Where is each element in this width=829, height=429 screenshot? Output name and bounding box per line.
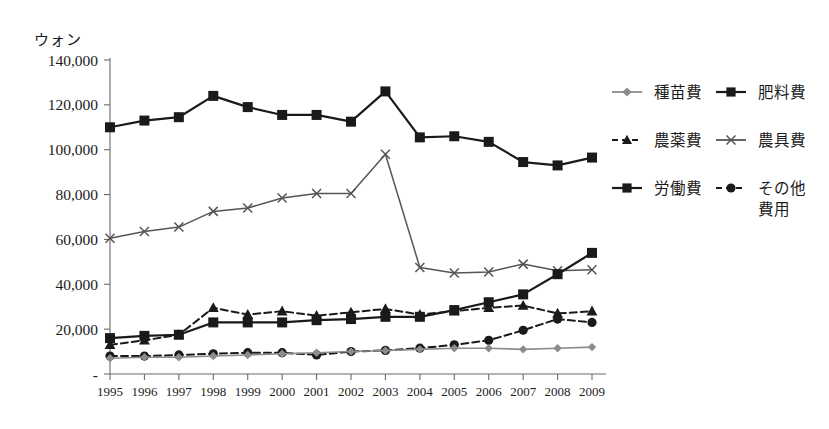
data-point-marker bbox=[484, 137, 494, 147]
legend-label: 農具費 bbox=[758, 132, 806, 149]
data-point-marker bbox=[518, 157, 528, 167]
line-chart-plot: 140,000120,000100,00080,00060,00040,0002… bbox=[0, 0, 829, 429]
data-point-marker bbox=[243, 317, 253, 327]
x-axis-tick-label: 2005 bbox=[441, 384, 467, 399]
data-point-marker bbox=[726, 87, 735, 96]
y-axis-tick-label: 100,000 bbox=[48, 141, 99, 158]
data-point-marker bbox=[519, 345, 527, 353]
x-axis-tick-label: 1996 bbox=[131, 384, 158, 399]
data-point-marker bbox=[553, 344, 561, 352]
y-axis-tick-group: 140,000120,000100,00080,00060,00040,0002… bbox=[48, 52, 110, 383]
y-axis-tick-label: 80,000 bbox=[55, 186, 98, 203]
data-point-marker bbox=[415, 132, 425, 142]
legend-label: その他 bbox=[758, 180, 806, 197]
y-axis-tick-label: 60,000 bbox=[55, 231, 98, 248]
series-line bbox=[110, 91, 592, 165]
data-point-marker bbox=[208, 302, 219, 312]
x-axis-tick-label: 2009 bbox=[579, 384, 605, 399]
data-point-marker bbox=[553, 160, 563, 170]
data-point-marker bbox=[485, 344, 493, 352]
data-point-marker bbox=[380, 303, 391, 313]
legend-entry-農具費 bbox=[716, 136, 746, 145]
legend-label: 費用 bbox=[758, 201, 790, 218]
data-point-marker bbox=[277, 317, 287, 327]
data-point-marker bbox=[519, 326, 528, 335]
data-series-農具費 bbox=[106, 150, 597, 278]
x-axis-tick-label: 2002 bbox=[338, 384, 364, 399]
data-point-marker bbox=[208, 91, 218, 101]
x-axis-tick-label: 2004 bbox=[407, 384, 434, 399]
y-axis-tick-label: 140,000 bbox=[48, 52, 99, 69]
y-axis-tick-label: 120,000 bbox=[48, 96, 99, 113]
data-point-marker bbox=[588, 343, 596, 351]
data-point-marker bbox=[518, 289, 528, 299]
data-point-marker bbox=[553, 269, 563, 279]
data-series-農薬費 bbox=[105, 300, 598, 349]
x-axis-tick-label: 2008 bbox=[545, 384, 571, 399]
data-point-marker bbox=[105, 122, 115, 132]
data-point-marker bbox=[174, 112, 184, 122]
data-point-marker bbox=[553, 314, 562, 323]
data-point-marker bbox=[587, 306, 598, 316]
x-axis-tick-label: 1995 bbox=[97, 384, 123, 399]
x-axis-tick-label: 2003 bbox=[372, 384, 398, 399]
series-line bbox=[110, 154, 592, 273]
x-axis-tick-label: 2007 bbox=[510, 384, 537, 399]
legend-label: 農薬費 bbox=[654, 132, 702, 149]
data-point-marker bbox=[380, 312, 390, 322]
data-point-marker bbox=[622, 87, 631, 96]
data-point-marker bbox=[312, 110, 322, 120]
chart-container: ウォン 140,000120,000100,00080,00060,00040,… bbox=[0, 0, 829, 429]
legend-entry-種苗費 bbox=[612, 87, 642, 96]
legend-entry-農薬費 bbox=[612, 135, 642, 144]
data-point-marker bbox=[587, 153, 597, 163]
data-point-marker bbox=[726, 183, 735, 192]
data-point-marker bbox=[622, 183, 631, 192]
data-point-marker bbox=[381, 150, 390, 159]
data-point-marker bbox=[587, 248, 597, 258]
x-axis-tick-label: 2006 bbox=[476, 384, 503, 399]
y-axis-tick-label: 20,000 bbox=[55, 321, 98, 338]
data-point-marker bbox=[346, 117, 356, 127]
figure-caption bbox=[0, 420, 829, 429]
chart-legend: 種苗費肥料費農薬費農具費労働費その他費用 bbox=[612, 84, 806, 218]
y-axis-tick-label: 40,000 bbox=[55, 276, 98, 293]
legend-label: 種苗費 bbox=[654, 84, 702, 101]
x-axis-tick-label: 1999 bbox=[235, 384, 261, 399]
y-axis-tick-label: - bbox=[93, 366, 98, 383]
x-axis-tick-label: 2000 bbox=[269, 384, 295, 399]
legend-entry-その他費用 bbox=[716, 183, 746, 192]
x-axis-tick-label: 2001 bbox=[304, 384, 330, 399]
data-point-marker bbox=[277, 306, 288, 316]
data-series-group bbox=[105, 86, 598, 362]
x-axis-tick-label: 1997 bbox=[166, 384, 193, 399]
data-point-marker bbox=[139, 116, 149, 126]
data-point-marker bbox=[449, 131, 459, 141]
data-point-marker bbox=[484, 336, 493, 345]
data-point-marker bbox=[277, 110, 287, 120]
legend-label: 労働費 bbox=[654, 180, 702, 197]
data-series-労働費 bbox=[105, 86, 597, 170]
legend-entry-肥料費 bbox=[716, 87, 746, 96]
data-point-marker bbox=[208, 317, 218, 327]
x-axis-tick-group: 1995199619971998199920002001200220032004… bbox=[97, 374, 605, 399]
data-point-marker bbox=[243, 102, 253, 112]
legend-entry-労働費 bbox=[612, 183, 642, 192]
data-point-marker bbox=[587, 318, 596, 327]
x-axis-tick-label: 1998 bbox=[200, 384, 226, 399]
data-point-marker bbox=[380, 86, 390, 96]
legend-label: 肥料費 bbox=[758, 84, 806, 101]
